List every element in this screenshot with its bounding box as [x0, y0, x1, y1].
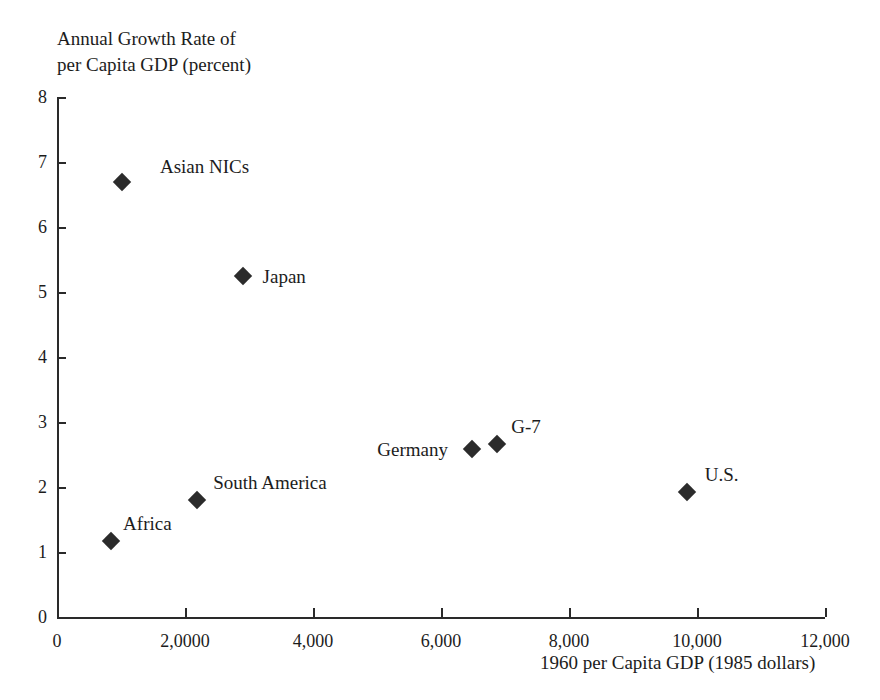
x-axis-title: 1960 per Capita GDP (1985 dollars) [540, 651, 815, 675]
x-tick-mark [697, 608, 699, 617]
x-tick-mark [185, 608, 187, 617]
data-point-marker [488, 435, 506, 453]
x-tick-label: 0 [53, 631, 62, 652]
y-tick-label: 5 [38, 282, 47, 303]
data-point-label: Africa [123, 513, 172, 535]
y-tick-label: 7 [38, 152, 47, 173]
plot-area: 012345678 02,00004,0006,0008,00010,00012… [57, 97, 825, 617]
data-point-label: Japan [263, 266, 306, 288]
y-tick-mark [57, 97, 66, 99]
x-tick-mark [569, 608, 571, 617]
data-point-label: U.S. [705, 464, 739, 486]
y-axis-title-line-2: per Capita GDP (percent) [57, 54, 251, 75]
x-tick-label: 12,000 [800, 631, 850, 652]
y-tick-mark [57, 162, 66, 164]
data-point-marker [188, 491, 206, 509]
x-tick-label: 8,000 [549, 631, 590, 652]
x-tick-label: 10,000 [672, 631, 722, 652]
y-axis-title-line-1: Annual Growth Rate of [57, 28, 236, 49]
y-tick-mark [57, 552, 66, 554]
y-tick-label: 1 [38, 542, 47, 563]
y-tick-mark [57, 227, 66, 229]
y-tick-mark [57, 422, 66, 424]
data-point-label: Asian NICs [160, 156, 249, 178]
data-point-marker [463, 440, 481, 458]
data-point-marker [102, 532, 120, 550]
data-point-marker [678, 482, 696, 500]
x-axis-line [57, 617, 825, 619]
y-tick-mark [57, 292, 66, 294]
data-point-label: G-7 [511, 416, 541, 438]
x-tick-mark [441, 608, 443, 617]
y-axis-title: Annual Growth Rate ofper Capita GDP (per… [57, 26, 251, 78]
y-tick-label: 8 [38, 87, 47, 108]
x-tick-label: 4,000 [293, 631, 334, 652]
x-tick-label: 2,0000 [160, 631, 210, 652]
x-tick-label: 6,000 [421, 631, 462, 652]
x-tick-mark [313, 608, 315, 617]
y-tick-mark [57, 487, 66, 489]
data-point-marker [233, 267, 251, 285]
scatter-chart: Annual Growth Rate ofper Capita GDP (per… [0, 0, 880, 700]
data-point-label: South America [213, 472, 326, 494]
y-tick-label: 0 [38, 607, 47, 628]
data-point-marker [113, 172, 131, 190]
y-tick-label: 6 [38, 217, 47, 238]
y-tick-label: 3 [38, 412, 47, 433]
x-tick-mark [825, 608, 827, 617]
data-point-label: Germany [377, 439, 448, 461]
y-tick-label: 4 [38, 347, 47, 368]
y-tick-mark [57, 357, 66, 359]
y-tick-label: 2 [38, 477, 47, 498]
y-tick-mark [57, 617, 66, 619]
